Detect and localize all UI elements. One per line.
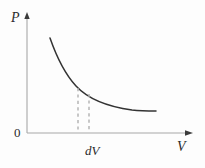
dv-interval-label: dV <box>85 144 99 157</box>
pv-diagram-canvas <box>0 0 205 168</box>
y-axis-label: P <box>11 11 20 25</box>
x-axis-label: V <box>177 140 186 154</box>
origin-label: 0 <box>14 126 21 139</box>
v-axis-arrowhead-icon <box>185 130 193 135</box>
p-axis-arrowhead-icon <box>24 12 29 19</box>
pv-diagram-figure: P 0 V dV <box>0 0 205 168</box>
pv-curve <box>50 38 156 111</box>
